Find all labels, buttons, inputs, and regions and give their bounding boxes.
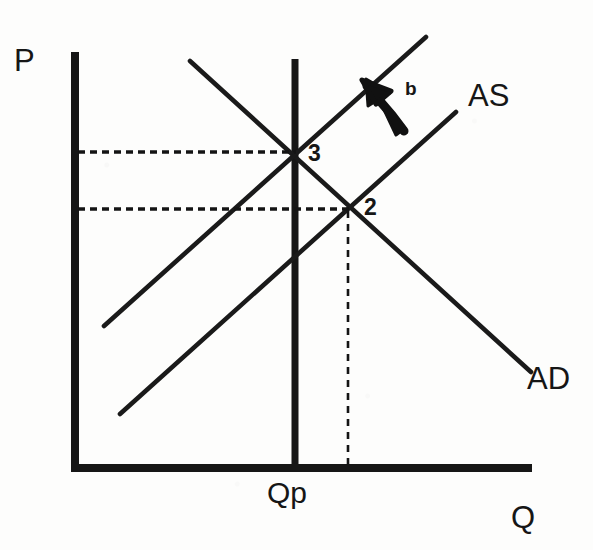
diagram-canvas: P Q Qp AS AD 3 2 b [0,0,593,550]
axis-group [71,52,532,470]
aggregate-supply-label: AS [468,80,509,111]
aggregate-supply-original-curve [120,112,456,414]
equilibrium-point-3-label: 3 [308,142,321,165]
aggregate-demand-label: AD [527,363,570,394]
quantity-axis-label: Q [511,502,535,533]
equilibrium-point-2-label: 2 [364,196,377,219]
potential-output-label: Qp [267,478,307,508]
shift-arrow-label: b [405,79,417,98]
shift-arrow-icon [362,79,405,135]
guide-lines-group [78,152,349,467]
price-axis-label: P [14,45,35,76]
